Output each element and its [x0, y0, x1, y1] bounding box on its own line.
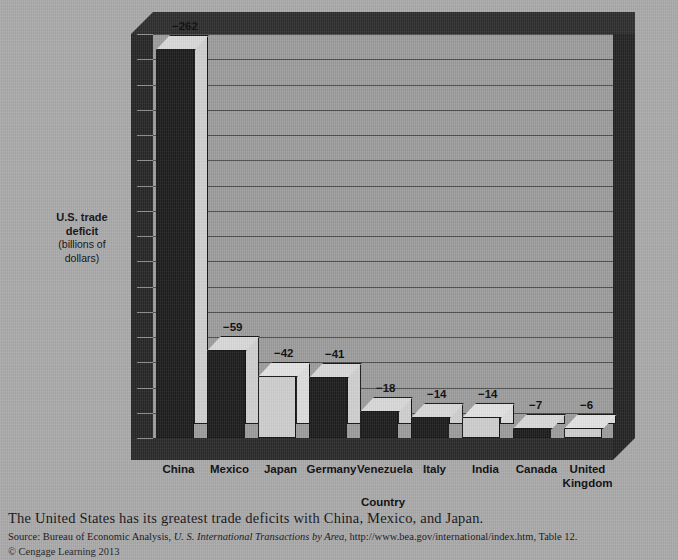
bar-value-label-mexico: −59: [223, 321, 243, 333]
bar-germany: [309, 377, 347, 438]
bar-value-label-united-kingdom: −6: [580, 399, 593, 411]
bar-china: [156, 49, 194, 438]
x-tick-label-line: India: [460, 462, 511, 476]
bar-top-face: [564, 414, 617, 429]
y-axis-title: U.S. trade deficit (billions of dollars): [34, 210, 130, 265]
x-tick-label-line: Mexico: [204, 462, 255, 476]
y-axis-unit-line-1: (billions of: [34, 238, 130, 251]
bar-front-face: [258, 376, 296, 438]
bar-front-face: [462, 417, 500, 438]
x-tick-label-line: Italy: [409, 462, 460, 476]
bar-value-label-canada: −7: [529, 399, 542, 411]
x-tick-label-canada: Canada: [511, 462, 562, 476]
y-axis-unit-line-2: dollars): [34, 252, 130, 265]
bar-canada: [513, 428, 551, 438]
x-tick-label-line: United: [562, 462, 613, 476]
bar-top-face: [513, 414, 566, 429]
bar-india: [462, 417, 500, 438]
y-axis-title-line-2: deficit: [34, 224, 130, 238]
x-tick-label-germany: Germany: [306, 462, 357, 476]
y-axis-title-line-1: U.S. trade: [34, 210, 130, 224]
x-axis-tick-labels: ChinaMexicoJapanGermanyVenezuelaItalyInd…: [131, 462, 635, 498]
x-tick-label-line: Japan: [255, 462, 306, 476]
bar-mexico: [207, 350, 245, 438]
bar-value-label-japan: −42: [274, 347, 294, 359]
bar-front-face: [513, 428, 551, 438]
x-tick-label-venezuela: Venezuela: [357, 462, 408, 476]
x-tick-label-line: Germany: [306, 462, 357, 476]
bar-value-label-germany: −41: [325, 348, 345, 360]
x-tick-label-japan: Japan: [255, 462, 306, 476]
x-tick-label-line: China: [153, 462, 204, 476]
bar-side-face: [194, 35, 208, 424]
bar-italy: [411, 417, 449, 438]
source-prefix: Source: Bureau of Economic Analysis,: [8, 531, 174, 542]
bar-front-face: [309, 377, 347, 438]
caption-main-text: The United States has its greatest trade…: [8, 509, 672, 527]
caption-block: The United States has its greatest trade…: [8, 509, 672, 558]
bar-front-face: [564, 428, 602, 438]
x-tick-label-india: India: [460, 462, 511, 476]
bar-front-face: [360, 411, 398, 438]
x-tick-label-italy: Italy: [409, 462, 460, 476]
bar-front-face: [156, 49, 194, 438]
x-tick-label-line: Venezuela: [357, 462, 408, 476]
trade-deficit-figure: U.S. trade deficit (billions of dollars)…: [0, 0, 678, 505]
source-line: Source: Bureau of Economic Analysis, U. …: [8, 530, 672, 544]
chart-plot-box: −262−59−42−41−18−14−14−7−6: [131, 12, 635, 460]
x-tick-label-china: China: [153, 462, 204, 476]
x-tick-label-mexico: Mexico: [204, 462, 255, 476]
source-suffix: , http://www.bea.gov/international/index…: [344, 531, 577, 542]
source-italic-lead: U. S.: [174, 531, 197, 542]
copyright-line: © Cengage Learning 2013: [8, 545, 672, 559]
bar-series: −262−59−42−41−18−14−14−7−6: [131, 12, 635, 460]
bar-japan: [258, 376, 296, 438]
bar-venezuela: [360, 411, 398, 438]
x-tick-label-line: Kingdom: [562, 476, 613, 490]
bar-value-label-india: −14: [478, 388, 498, 400]
x-axis-title: Country: [131, 496, 635, 508]
bar-front-face: [411, 417, 449, 438]
x-tick-label-united-kingdom: UnitedKingdom: [562, 462, 613, 491]
bar-front-face: [207, 350, 245, 438]
bar-united-kingdom: [564, 428, 602, 438]
source-italic-title: International Transactions by Area: [197, 531, 344, 542]
bar-value-label-italy: −14: [427, 388, 447, 400]
x-tick-label-line: Canada: [511, 462, 562, 476]
bar-value-label-china: −262: [172, 20, 198, 32]
bar-value-label-venezuela: −18: [376, 382, 396, 394]
